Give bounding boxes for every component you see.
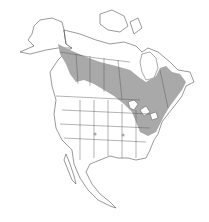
arctic-islands [100, 10, 142, 34]
isolated-point-missouri [121, 133, 124, 136]
range-map [0, 0, 209, 222]
isolated-point-colorado [93, 132, 96, 135]
north-america-map [0, 0, 209, 222]
